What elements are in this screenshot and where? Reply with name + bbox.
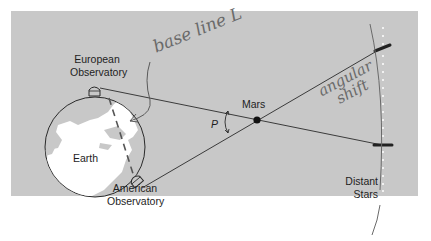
pointer-stroke <box>372 205 380 235</box>
mars-label: Mars <box>242 98 265 111</box>
american-observatory-label: American Observatory <box>107 182 163 208</box>
american-label-line1: American <box>107 182 163 195</box>
european-observatory-label: European Observatory <box>70 53 124 79</box>
stars-label-line1: Distant <box>340 175 378 188</box>
earth-label: Earth <box>73 152 98 165</box>
sight-lines <box>100 48 382 188</box>
mars-dot <box>253 116 260 123</box>
star-image-upper <box>375 45 390 51</box>
parallax-angle-label: P <box>211 118 218 131</box>
european-observatory-icon <box>89 87 100 96</box>
american-label-line2: Observatory <box>107 195 163 208</box>
distant-stars <box>382 27 384 192</box>
baseline-pointer-arrow <box>130 62 150 121</box>
stars-label-line2: Stars <box>340 188 378 201</box>
parallax-angle-arc <box>225 111 229 133</box>
european-label-line1: European <box>70 53 124 66</box>
distant-stars-label: Distant Stars <box>340 175 378 201</box>
european-label-line2: Observatory <box>70 66 124 79</box>
